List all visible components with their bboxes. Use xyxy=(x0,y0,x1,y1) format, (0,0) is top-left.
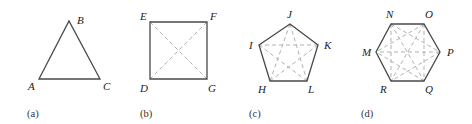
vertex-label-n: N xyxy=(385,8,394,20)
vertex-label-h: H xyxy=(257,83,267,95)
pentagon-outline xyxy=(259,24,318,81)
vertex-label-p: P xyxy=(446,46,454,58)
vertex-label-c: C xyxy=(103,80,111,92)
caption-d: (d) xyxy=(361,108,374,120)
vertex-label-k: K xyxy=(323,39,332,51)
diagonal-jl xyxy=(290,24,307,81)
figure-a-triangle: A B C (a) xyxy=(27,14,111,120)
vertex-label-i: I xyxy=(248,39,254,51)
figure-d-hexagon: N O P Q R M (d) xyxy=(361,8,454,120)
caption-b: (b) xyxy=(140,108,153,120)
vertex-label-m: M xyxy=(361,46,372,58)
vertex-label-e: E xyxy=(139,10,147,22)
vertex-label-f: F xyxy=(209,10,217,22)
vertex-label-o: O xyxy=(425,8,433,20)
vertex-label-b: B xyxy=(77,14,84,26)
figure-b-square: E F G D (b) xyxy=(139,10,217,120)
vertex-label-l: L xyxy=(307,83,314,95)
diagonal-li xyxy=(259,45,307,81)
vertex-label-g: G xyxy=(208,82,216,94)
square-outline xyxy=(150,22,207,79)
figure-c-pentagon: J K L H I (c) xyxy=(248,8,332,120)
vertex-label-r: R xyxy=(379,83,387,95)
caption-a: (a) xyxy=(27,108,39,120)
vertex-label-a: A xyxy=(27,80,35,92)
diagonal-jh xyxy=(270,24,290,81)
diagonal-kh xyxy=(270,45,318,81)
vertex-label-j: J xyxy=(287,8,293,20)
hexagon-outline xyxy=(376,24,440,81)
vertex-label-d: D xyxy=(139,82,148,94)
triangle-outline xyxy=(39,21,100,79)
diagonal-eg xyxy=(150,22,207,79)
polygon-diagonals-figure: A B C (a) E F G D (b) J K L H I (c) xyxy=(0,0,472,124)
vertex-label-q: Q xyxy=(425,83,433,95)
diagonal-fd xyxy=(150,22,207,79)
caption-c: (c) xyxy=(249,108,261,120)
